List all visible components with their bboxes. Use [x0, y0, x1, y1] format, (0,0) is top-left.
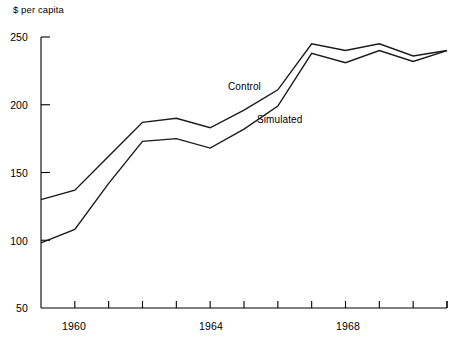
plot-area — [0, 0, 464, 347]
line-series-simulated — [41, 51, 447, 243]
chart-container: $ per capita 250 200 150 100 50 1960 196… — [0, 0, 464, 347]
y-axis-ticks — [41, 105, 50, 241]
line-series-control — [41, 44, 447, 200]
axis-lines — [41, 37, 447, 308]
x-axis-ticks — [75, 301, 447, 308]
